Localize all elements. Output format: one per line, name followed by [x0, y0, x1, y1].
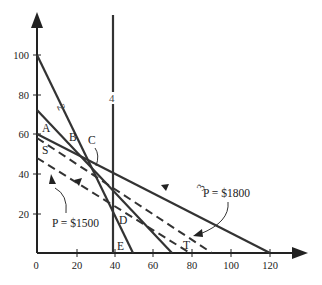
direction-arrow-icon — [161, 184, 169, 191]
chart: 20 40 60 80 100 0 20 40 60 80 100 120 2 … — [0, 0, 322, 285]
y-axis-arrow-icon — [31, 12, 43, 28]
callout-p1500 — [55, 188, 66, 213]
y-tick-label: 20 — [19, 209, 30, 220]
y-tick-label: 60 — [19, 129, 30, 140]
callout-arrow-icon — [193, 229, 203, 237]
point-label-e: E — [117, 240, 124, 252]
line-label-2: 2 — [55, 102, 68, 112]
x-tick-label: 20 — [72, 260, 83, 271]
point-label-d: D — [119, 214, 127, 226]
callout-arrow-icon — [49, 174, 56, 184]
y-tick-label: 40 — [19, 169, 30, 180]
x-tick-label: 0 — [33, 260, 38, 271]
x-tick-label: 120 — [262, 260, 278, 271]
x-tick-label: 40 — [110, 260, 121, 271]
x-tick-label: 60 — [148, 260, 159, 271]
x-axis-arrow-icon — [292, 247, 308, 259]
point-label-s: S — [42, 144, 48, 156]
point-label-t: T — [183, 239, 190, 251]
point-label-c: C — [88, 134, 96, 146]
y-tick-label: 100 — [13, 50, 29, 61]
point-label-a: A — [42, 122, 51, 134]
annotation-p1800: P = $1800 — [203, 187, 250, 199]
point-label-b: B — [69, 131, 77, 143]
x-tick-label: 80 — [187, 260, 198, 271]
line-label-4: 4 — [109, 92, 115, 104]
x-tick-label: 100 — [223, 260, 239, 271]
y-tick-label: 80 — [19, 90, 30, 101]
annotation-p1500: P = $1500 — [52, 217, 99, 229]
